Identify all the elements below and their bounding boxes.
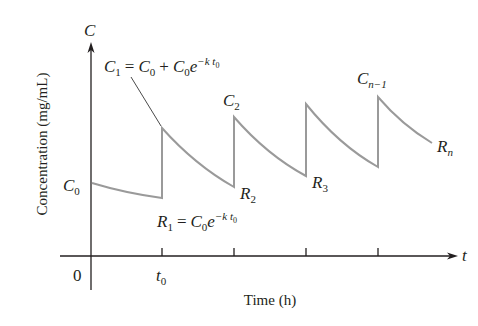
label-r2: R2 — [239, 184, 256, 205]
label-cn-minus-1: Cn−1 — [357, 69, 387, 90]
c1-leader-line — [131, 77, 161, 126]
x-ticks — [162, 248, 378, 256]
y-axis-title: Concentration (mg/mL) — [34, 73, 51, 216]
label-r1-formula: R1=C0e−k t0 — [156, 210, 237, 233]
concentration-curve — [92, 97, 432, 198]
x-axis-title: Time (h) — [244, 292, 296, 309]
label-c0: C0 — [63, 176, 80, 197]
origin-label: 0 — [73, 266, 82, 285]
x-axis-symbol: t — [462, 246, 468, 265]
x-tick-label-t0: t0 — [156, 266, 167, 287]
y-axis-symbol: C — [84, 21, 96, 40]
label-c1-formula: C1=C0+C0e−k t0 — [104, 55, 219, 78]
label-rn: Rn — [436, 137, 453, 158]
label-c2: C2 — [223, 91, 240, 112]
label-r3: R3 — [311, 173, 328, 194]
chart-canvas: C t 0 t0 Concentration (mg/mL) Time (h) … — [0, 0, 478, 326]
